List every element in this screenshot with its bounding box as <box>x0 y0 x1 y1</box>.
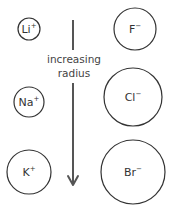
ion-li-plus: Li+ <box>18 18 40 40</box>
down-arrow-icon <box>68 20 78 185</box>
ion-na-plus: Na+ <box>14 87 44 117</box>
svg-text:Na+: Na+ <box>19 95 40 109</box>
ionic-radius-diagram: Li+ Na+ K+ F− Cl− Br− increasing radius <box>0 0 171 208</box>
arrow-label-line2: radius <box>58 67 90 79</box>
svg-text:F−: F− <box>129 22 141 36</box>
svg-text:Li+: Li+ <box>21 22 36 36</box>
ion-cl-minus: Cl− <box>104 68 162 126</box>
svg-text:K+: K+ <box>22 165 35 179</box>
ion-br-minus: Br− <box>101 140 165 204</box>
ion-k-plus: K+ <box>7 150 51 194</box>
svg-text:Cl−: Cl− <box>125 90 142 104</box>
arrow-label-line1: increasing <box>47 53 101 65</box>
ion-f-minus: F− <box>114 8 156 50</box>
svg-text:Br−: Br− <box>124 165 142 179</box>
